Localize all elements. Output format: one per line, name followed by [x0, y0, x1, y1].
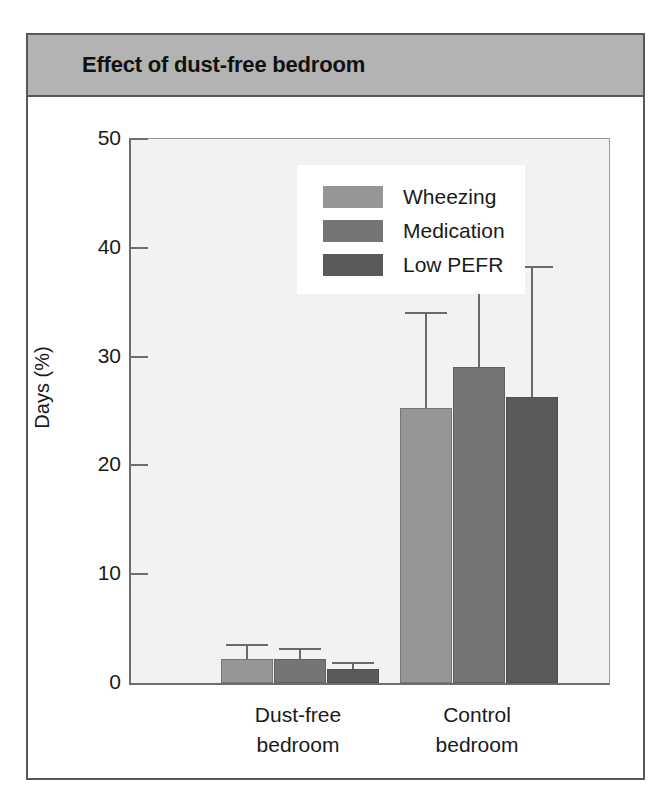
error-bar-line: [531, 266, 533, 397]
legend-swatch-low-pefr: [323, 254, 383, 276]
chart-legend: WheezingMedicationLow PEFR: [297, 165, 525, 294]
error-bar-cap: [405, 312, 447, 314]
y-axis-tick-30: [131, 356, 148, 358]
error-bar-line: [425, 312, 427, 408]
y-axis-tick-label-20: 20: [98, 452, 121, 476]
x-axis-label-control-bedroom: Control bedroom: [377, 700, 577, 760]
plot-wrapper: Days (%) 01020304050 WheezingMedicationL…: [28, 97, 643, 778]
bar-low-pefr-dust-free: [327, 669, 379, 683]
legend-label: Medication: [403, 217, 505, 245]
error-bar-cap: [332, 662, 374, 664]
x-axis-label-dust-free-bedroom: Dust-free bedroom: [198, 700, 398, 760]
y-axis-tick-20: [131, 464, 148, 466]
error-bar-cap: [279, 648, 321, 650]
title-band: Effect of dust-free bedroom: [28, 35, 643, 97]
y-axis-tick-40: [131, 247, 148, 249]
y-axis-tick-labels: 01020304050: [83, 138, 121, 682]
y-axis-tick-label-50: 50: [98, 126, 121, 150]
legend-swatch-medication: [323, 220, 383, 242]
error-bar-line: [246, 644, 248, 659]
y-axis-tick-10: [131, 573, 148, 575]
bar-wheezing-control: [400, 408, 452, 683]
bar-low-pefr-control: [506, 397, 558, 683]
y-axis-tick-label-0: 0: [109, 670, 121, 694]
legend-swatch-wheezing: [323, 186, 383, 208]
figure-panel: Effect of dust-free bedroom Days (%) 010…: [26, 33, 645, 780]
y-axis-tick-label-30: 30: [98, 344, 121, 368]
y-axis-title: Days (%): [31, 308, 54, 468]
y-axis-tick-label-40: 40: [98, 235, 121, 259]
bar-wheezing-dust-free: [221, 659, 273, 683]
y-axis-tick-50: [131, 138, 148, 140]
plot-area: WheezingMedicationLow PEFR: [129, 138, 610, 685]
bar-medication-dust-free: [274, 659, 326, 683]
legend-label: Wheezing: [403, 183, 496, 211]
bar-medication-control: [453, 367, 505, 683]
y-axis-tick-label-10: 10: [98, 561, 121, 585]
chart-title: Effect of dust-free bedroom: [82, 52, 365, 78]
error-bar-cap: [226, 644, 268, 646]
legend-label: Low PEFR: [403, 251, 503, 279]
